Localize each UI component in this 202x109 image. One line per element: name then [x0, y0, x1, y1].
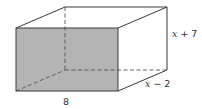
edge-top-left-depth [16, 7, 65, 28]
width-label: 8 [63, 97, 69, 107]
height-label: x + 7 [172, 29, 197, 39]
front-face [16, 28, 118, 91]
depth-label: x − 2 [145, 79, 170, 89]
prism-diagram [0, 0, 202, 109]
width-label-value: 8 [63, 96, 69, 107]
height-label-rest: + 7 [177, 28, 197, 39]
edge-top-right-depth [118, 7, 167, 28]
depth-label-rest: − 2 [150, 78, 170, 89]
